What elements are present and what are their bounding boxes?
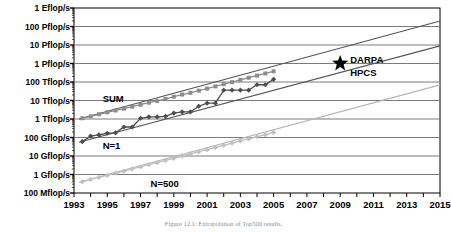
x-axis-labels: 1993199519971999200120032005200720092011… bbox=[0, 196, 447, 212]
x-axis-tick-label: 1995 bbox=[97, 200, 118, 210]
series-marker bbox=[197, 89, 201, 93]
series-label-n1: N=1 bbox=[103, 141, 121, 151]
series-marker bbox=[80, 116, 84, 120]
x-axis-tick-label: 2001 bbox=[197, 200, 218, 210]
series-marker bbox=[230, 80, 234, 84]
y-axis-tick-label: 10 Tflop/s bbox=[30, 96, 70, 105]
series-marker bbox=[263, 71, 267, 75]
annotation-label-hpcs: HPCS bbox=[350, 68, 376, 78]
x-axis-tick-label: 2015 bbox=[429, 200, 450, 210]
y-axis-tick-label: 100 Gflop/s bbox=[24, 133, 70, 142]
figure-caption: Figure 12.1: Extrapolation of Top500 res… bbox=[0, 220, 447, 232]
series-marker bbox=[89, 114, 93, 118]
y-axis-tick-label: 10 Pflop/s bbox=[30, 41, 70, 50]
series-marker bbox=[114, 108, 118, 112]
x-axis-tick-label: 1999 bbox=[163, 200, 184, 210]
series-marker bbox=[155, 99, 159, 103]
series-marker bbox=[213, 84, 217, 88]
annotation-label-darpa: DARPA bbox=[350, 55, 383, 65]
series-marker bbox=[172, 95, 176, 99]
series-marker bbox=[147, 101, 151, 105]
x-axis-tick-label: 1997 bbox=[130, 200, 151, 210]
x-axis-tick-label: 2011 bbox=[363, 200, 384, 210]
series-marker bbox=[205, 87, 209, 91]
x-axis-tick-label: 2013 bbox=[396, 200, 417, 210]
series-marker bbox=[247, 76, 251, 80]
y-axis-tick-label: 1 Eflop/s bbox=[35, 4, 70, 13]
series-marker bbox=[105, 110, 109, 114]
series-marker bbox=[255, 74, 259, 78]
series-marker bbox=[130, 105, 134, 109]
y-axis-tick-label: 1 Pflop/s bbox=[35, 59, 70, 68]
x-axis-tick-label: 2003 bbox=[230, 200, 251, 210]
series-label-n500: N=500 bbox=[151, 179, 179, 189]
y-axis-tick-label: 100 Pflop/s bbox=[25, 22, 70, 31]
y-axis-tick-label: 1 Gflop/s bbox=[34, 170, 70, 179]
y-axis-tick-label: 10 Gflop/s bbox=[29, 152, 70, 161]
series-marker bbox=[272, 69, 276, 73]
series-marker bbox=[97, 112, 101, 116]
x-axis-tick-label: 1993 bbox=[63, 200, 84, 210]
x-axis-tick-label: 2007 bbox=[296, 200, 317, 210]
series-marker bbox=[238, 78, 242, 82]
series-marker bbox=[180, 93, 184, 97]
series-marker bbox=[222, 82, 226, 86]
series-marker bbox=[164, 97, 168, 101]
series-marker bbox=[139, 103, 143, 107]
y-axis-tick-label: 100 Tflop/s bbox=[26, 78, 70, 87]
x-axis-tick-label: 2005 bbox=[263, 200, 284, 210]
y-axis-tick-label: 1 Tflop/s bbox=[35, 115, 70, 124]
series-label-sum: SUM bbox=[103, 94, 124, 104]
series-marker bbox=[122, 107, 126, 111]
series-marker bbox=[188, 91, 192, 95]
x-axis-tick-label: 2009 bbox=[330, 200, 351, 210]
